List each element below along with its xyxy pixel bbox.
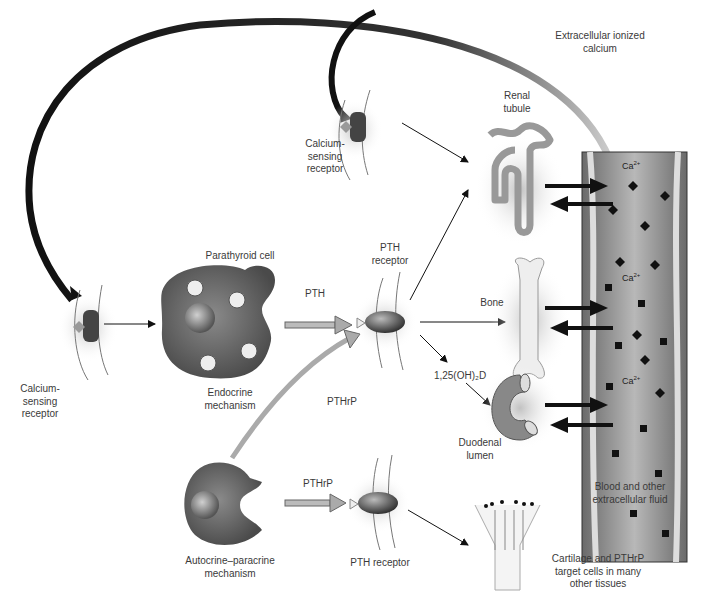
label-pth-receptor-bottom: PTH receptor — [340, 557, 420, 570]
label-pth: PTH — [300, 288, 330, 301]
pth-arrow — [285, 316, 352, 334]
label-csr-top: Calcium- sensing receptor — [295, 138, 355, 176]
label-parathyroid-cell: Parathyroid cell — [195, 250, 285, 263]
label-duodenal-lumen: Duodenal lumen — [450, 437, 510, 462]
label-renal-tubule: Renal tubule — [492, 90, 542, 115]
ca-ion-label: Ca2+ — [622, 160, 640, 171]
label-bone: Bone — [472, 297, 512, 310]
bone — [490, 258, 570, 380]
pth-receptor-bottom — [346, 455, 410, 550]
label-pthrp: PTHrP — [298, 478, 338, 491]
pthrp-arrow — [285, 494, 346, 512]
calcium-regulation-diagram — [0, 0, 702, 601]
label-csr-left: Calcium- sensing receptor — [10, 383, 70, 421]
label-vitd: 1,25(OH)₂D — [425, 370, 495, 383]
ca-ion-label: Ca2+ — [622, 375, 640, 386]
label-blood: Blood and other extracellular fluid — [570, 481, 690, 506]
parathyroid-cell — [161, 265, 275, 378]
pth-receptor-top — [353, 272, 417, 370]
label-extracellular-calcium: Extracellular ionized calcium — [530, 30, 670, 55]
cartilage — [475, 500, 540, 590]
label-cartilage: Cartilage and PTHrP target cells in many… — [533, 553, 663, 591]
label-endocrine: Endocrine mechanism — [195, 387, 265, 412]
label-autocrine: Autocrine–paracrine mechanism — [175, 555, 285, 580]
autocrine-paracrine-cell — [184, 463, 262, 545]
label-pth-receptor-top: PTH receptor — [365, 242, 415, 267]
label-pthrp-diagonal: PTHrP — [322, 396, 362, 409]
ca-ion-label: Ca2+ — [622, 272, 640, 283]
